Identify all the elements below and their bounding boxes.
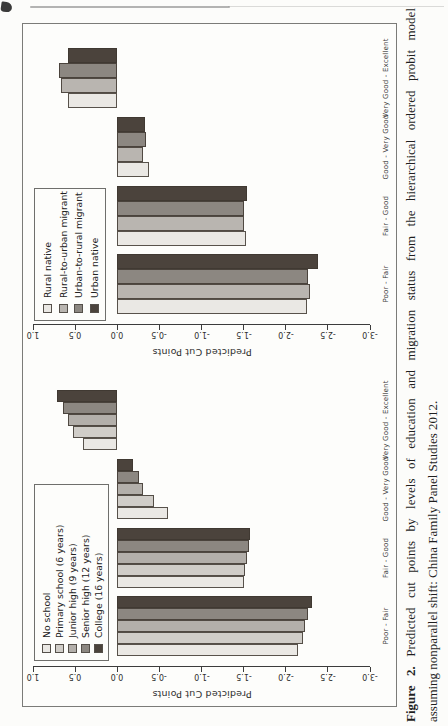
- legend-label: Junior high (9 years): [67, 543, 78, 638]
- bar-urban-native: [68, 48, 117, 63]
- chart-panel-migration: 1.00.50.0-0.5-1.0-1.5-2.0-2.5-3.0Predict…: [23, 22, 396, 364]
- legend-swatch-icon: [42, 644, 51, 653]
- legend-item: No school: [40, 492, 53, 653]
- legend-label: College (16 years): [93, 553, 104, 638]
- bar-urban-to-rural-migrant: [117, 269, 307, 284]
- y-tick-label: 0.5: [69, 330, 82, 339]
- figure-frame: 1.00.50.0-0.5-1.0-1.5-2.0-2.5-3.0Predict…: [22, 23, 397, 707]
- bar-no-school: [117, 507, 168, 519]
- bar-rural-native: [117, 162, 149, 177]
- legend-label: Senior high (12 years): [80, 535, 91, 638]
- caption-text: Predicted cut points by levels of educat…: [403, 8, 418, 657]
- legend-item: Urban native: [87, 196, 103, 313]
- x-category-label: Very Good - Excellent: [382, 38, 390, 117]
- figure-caption: Figure 2. Predicted cut points by levels…: [400, 8, 444, 722]
- legend-item: College (16 years): [92, 492, 105, 653]
- y-tick-label: -0.5: [152, 672, 168, 681]
- legend-swatch-icon: [90, 304, 99, 313]
- legend-label: Urban-to-rural migrant: [73, 192, 84, 298]
- bar-senior-high-12-years: [117, 608, 308, 620]
- bar-rural-to-urban-migrant: [117, 284, 310, 299]
- bar-primary-school-6-years: [117, 632, 302, 644]
- y-axis-title: Predicted Cut Points: [152, 689, 252, 700]
- legend-item: Rural native: [40, 196, 56, 313]
- bar-junior-high-9-years: [117, 552, 247, 564]
- y-tick-label: -0.5: [152, 330, 168, 339]
- bar-senior-high-12-years: [63, 402, 117, 414]
- legend-swatch-icon: [55, 644, 64, 653]
- bar-college-16-years: [117, 459, 133, 471]
- bar-college-16-years: [57, 390, 118, 402]
- bar-primary-school-6-years: [117, 564, 245, 576]
- legend-migration: Rural nativeRural-to-urban migrantUrban-…: [34, 188, 106, 321]
- legend-swatch-icon: [43, 304, 52, 313]
- bar-rural-to-urban-migrant: [117, 216, 243, 231]
- legend-swatch-icon: [94, 644, 103, 653]
- caption-line-1: Figure 2. Predicted cut points by levels…: [400, 8, 422, 722]
- y-tick-label: 1.0: [27, 672, 40, 681]
- x-category-label: Fair - Good: [382, 538, 390, 578]
- legend-label: Urban native: [89, 238, 100, 298]
- y-tick-label: -3.0: [362, 672, 378, 681]
- legend-item: Rural-to-urban migrant: [56, 196, 72, 313]
- bar-senior-high-12-years: [117, 471, 139, 483]
- y-tick-label: -1.0: [194, 330, 210, 339]
- bar-college-16-years: [117, 596, 312, 608]
- chart-panel-education: 1.00.50.0-0.5-1.0-1.5-2.0-2.5-3.0Predict…: [23, 364, 396, 706]
- bar-primary-school-6-years: [73, 426, 118, 438]
- y-tick-label: 0.0: [111, 672, 124, 681]
- legend-label: Rural-to-urban migrant: [58, 191, 69, 298]
- y-tick-label: -1.5: [236, 330, 252, 339]
- bar-urban-native: [117, 254, 318, 269]
- y-tick-label: -2.0: [278, 672, 294, 681]
- bar-rural-native: [117, 231, 246, 246]
- y-tick-label: 0.0: [111, 330, 124, 339]
- legend-item: Primary school (6 years): [53, 492, 66, 653]
- y-tick-label: -2.5: [320, 672, 336, 681]
- x-category-label: Poor - Fair: [382, 607, 390, 644]
- bar-rural-native: [117, 299, 307, 314]
- x-category-label: Good - Very Good: [382, 115, 390, 180]
- bar-urban-native: [117, 117, 145, 132]
- rotated-figure: 1.00.50.0-0.5-1.0-1.5-2.0-2.5-3.0Predict…: [0, 0, 448, 726]
- bar-primary-school-6-years: [117, 495, 154, 507]
- x-category-label: Fair - Good: [382, 196, 390, 236]
- legend-item: Urban-to-rural migrant: [71, 196, 87, 313]
- legend-swatch-icon: [68, 644, 77, 653]
- legend-label: No school: [41, 593, 52, 638]
- legend-swatch-icon: [74, 304, 83, 313]
- legend-swatch-icon: [59, 304, 68, 313]
- legend-label: Rural native: [42, 242, 53, 298]
- bar-junior-high-9-years: [68, 414, 118, 426]
- figure-label: Figure 2.: [403, 666, 418, 722]
- bar-senior-high-12-years: [117, 540, 248, 552]
- bar-rural-to-urban-migrant: [61, 78, 117, 93]
- x-category-label: Poor - Fair: [382, 265, 390, 302]
- y-tick-label: 0.5: [69, 672, 82, 681]
- bar-rural-to-urban-migrant: [117, 147, 143, 162]
- y-tick-label: -1.0: [194, 672, 210, 681]
- y-tick-label: -2.5: [320, 330, 336, 339]
- bar-no-school: [83, 438, 118, 450]
- legend-education: No schoolPrimary school (6 years)Junior …: [34, 484, 109, 661]
- x-category-label: Very Good - Excellent: [382, 380, 390, 459]
- bar-no-school: [117, 644, 298, 656]
- bar-urban-to-rural-migrant: [59, 63, 117, 78]
- legend-item: Junior high (9 years): [66, 492, 79, 653]
- bar-junior-high-9-years: [117, 483, 142, 495]
- bar-no-school: [117, 576, 243, 588]
- bar-rural-native: [68, 93, 117, 108]
- caption-line-2: assuming nonparallel shift: China Family…: [422, 8, 444, 722]
- bar-junior-high-9-years: [117, 620, 305, 632]
- y-axis-title: Predicted Cut Points: [152, 347, 252, 358]
- y-tick-label: -2.0: [278, 330, 294, 339]
- y-tick-label: -3.0: [362, 330, 378, 339]
- legend-label: Primary school (6 years): [54, 525, 65, 638]
- bar-urban-native: [117, 186, 247, 201]
- legend-item: Senior high (12 years): [79, 492, 92, 653]
- bar-urban-to-rural-migrant: [117, 201, 243, 216]
- bar-urban-to-rural-migrant: [117, 132, 146, 147]
- y-tick-label: 1.0: [27, 330, 40, 339]
- page: { "caption": { "label": "Figure 2.", "li…: [0, 0, 448, 726]
- legend-swatch-icon: [81, 644, 90, 653]
